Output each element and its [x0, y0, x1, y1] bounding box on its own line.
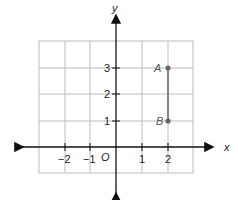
- origin-label: O: [101, 151, 110, 163]
- point-a-label: A: [153, 62, 161, 74]
- point-b: [165, 118, 170, 123]
- coordinate-plane: y x O −2 −1 1 2 1 2 3 A B: [0, 0, 238, 200]
- x-tick-label: −1: [83, 153, 96, 165]
- x-tick-label: −2: [58, 153, 71, 165]
- y-tick-label: 1: [104, 115, 110, 127]
- y-tick-label: 2: [104, 88, 110, 100]
- y-axis-label: y: [111, 2, 119, 14]
- x-tick-label: 1: [139, 153, 145, 165]
- x-axis-label: x: [223, 141, 230, 153]
- point-b-label: B: [156, 115, 163, 127]
- x-tick-label: 2: [165, 153, 171, 165]
- point-a: [165, 65, 170, 70]
- y-tick-label: 3: [104, 62, 110, 74]
